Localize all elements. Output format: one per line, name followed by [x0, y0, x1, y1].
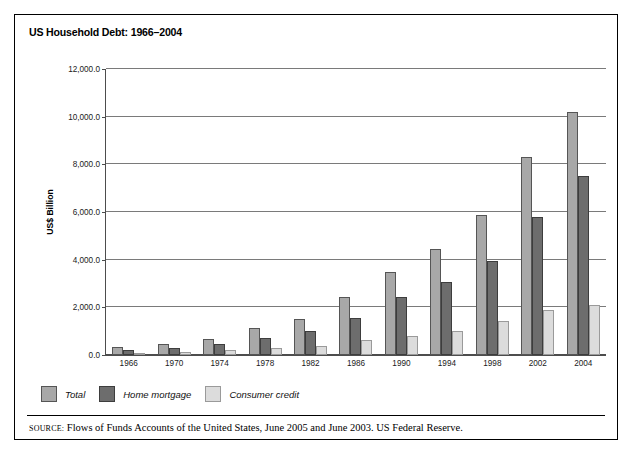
bar-total[interactable]	[430, 249, 441, 355]
bar-group: 1990	[379, 69, 424, 355]
x-axis-tick-label: 1994	[438, 359, 456, 368]
bar-total[interactable]	[385, 272, 396, 355]
y-axis-tick-label: 10,000.0	[68, 112, 100, 121]
x-axis-tick-label: 1978	[256, 359, 274, 368]
page-title: US Household Debt: 1966–2004	[29, 26, 182, 38]
source-divider	[27, 415, 605, 416]
x-axis-tick-label: 1990	[392, 359, 410, 368]
bar-total[interactable]	[112, 347, 123, 355]
bar-group: 2002	[515, 69, 560, 355]
legend-swatch-home-mortgage	[99, 386, 115, 402]
bar-total[interactable]	[476, 215, 487, 355]
bar-total[interactable]	[521, 157, 532, 355]
legend-item[interactable]: Total	[41, 386, 85, 402]
bar-mortgage[interactable]	[441, 282, 452, 355]
bar-mortgage[interactable]	[260, 338, 271, 355]
bar-mortgage[interactable]	[169, 348, 180, 355]
bar-total[interactable]	[158, 344, 169, 355]
bar-mortgage[interactable]	[487, 261, 498, 355]
y-axis-tick-mark	[102, 355, 106, 356]
bar-consumer[interactable]	[589, 305, 600, 355]
bar-consumer[interactable]	[271, 348, 282, 355]
bar-total[interactable]	[203, 339, 214, 355]
y-axis-tick-label: 0.0	[89, 351, 100, 360]
bar-group: 1974	[197, 69, 242, 355]
bar-mortgage[interactable]	[123, 350, 134, 355]
x-axis-tick-label: 2004	[574, 359, 592, 368]
bar-mortgage[interactable]	[214, 344, 225, 355]
y-axis-title-label: US$ Billion	[45, 189, 55, 234]
bar-consumer[interactable]	[225, 350, 236, 355]
x-axis-tick-label: 1998	[483, 359, 501, 368]
bar-groups: 1966197019741978198219861990199419982002…	[106, 69, 606, 355]
bar-consumer[interactable]	[316, 346, 327, 355]
figure-frame: US Household Debt: 1966–2004 US$ Billion…	[14, 14, 618, 440]
bar-group: 2004	[561, 69, 606, 355]
y-axis-tick-label: 2,000.0	[73, 303, 100, 312]
bar-consumer[interactable]	[452, 331, 463, 355]
legend-swatch-total	[41, 386, 57, 402]
bar-group: 1966	[106, 69, 151, 355]
bar-mortgage[interactable]	[578, 176, 589, 355]
source-note: SOURCE: Flows of Funds Accounts of the U…	[29, 422, 463, 433]
x-axis-tick-label: 1966	[120, 359, 138, 368]
x-axis-tick-label: 1982	[301, 359, 319, 368]
bar-group: 1998	[470, 69, 515, 355]
bar-group: 1982	[288, 69, 333, 355]
bar-group: 1994	[424, 69, 469, 355]
bar-consumer[interactable]	[407, 336, 418, 355]
bar-mortgage[interactable]	[532, 217, 543, 355]
bar-consumer[interactable]	[134, 353, 145, 355]
chart-plot-area: 0.02,000.04,000.06,000.08,000.010,000.01…	[105, 69, 606, 356]
y-axis-tick-label: 4,000.0	[73, 255, 100, 264]
y-axis-tick-label: 12,000.0	[68, 65, 100, 74]
bar-consumer[interactable]	[361, 340, 372, 355]
x-axis-tick-label: 1970	[165, 359, 183, 368]
y-axis-title: US$ Billion	[43, 69, 57, 355]
bar-mortgage[interactable]	[396, 297, 407, 355]
bar-consumer[interactable]	[180, 352, 191, 355]
bar-total[interactable]	[249, 328, 260, 355]
bar-mortgage[interactable]	[350, 318, 361, 355]
legend-item-label: Home mortgage	[123, 389, 191, 400]
y-axis-tick-label: 6,000.0	[73, 208, 100, 217]
bar-total[interactable]	[294, 319, 305, 355]
bar-consumer[interactable]	[498, 321, 509, 355]
source-text: Flows of Funds Accounts of the United St…	[67, 422, 463, 433]
legend-item-label: Total	[65, 389, 85, 400]
source-keyword: SOURCE:	[29, 424, 64, 433]
chart-legend: TotalHome mortgageConsumer credit	[41, 386, 313, 402]
bar-consumer[interactable]	[543, 310, 554, 355]
x-axis-tick-label: 1974	[211, 359, 229, 368]
bar-group: 1970	[151, 69, 196, 355]
y-axis-tick-label: 8,000.0	[73, 160, 100, 169]
bar-group: 1986	[333, 69, 378, 355]
bar-group: 1978	[242, 69, 287, 355]
legend-item[interactable]: Consumer credit	[205, 386, 299, 402]
legend-item-label: Consumer credit	[229, 389, 299, 400]
bar-total[interactable]	[339, 297, 350, 355]
legend-swatch-consumer-credit	[205, 386, 221, 402]
bar-mortgage[interactable]	[305, 331, 316, 355]
legend-item[interactable]: Home mortgage	[99, 386, 191, 402]
x-axis-tick-label: 2002	[529, 359, 547, 368]
bar-total[interactable]	[567, 112, 578, 355]
x-axis-tick-label: 1986	[347, 359, 365, 368]
